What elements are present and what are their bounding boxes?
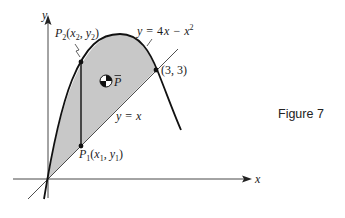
figure-caption: Figure 7	[278, 107, 324, 121]
x-axis-label: x	[254, 172, 261, 186]
p1-label: P1(x1, y1)	[78, 147, 123, 163]
point-intersection	[154, 68, 159, 73]
centroid-icon	[100, 75, 112, 87]
line-equation-label: y=x	[115, 109, 142, 123]
parabola-leader	[147, 39, 152, 46]
p2-leader	[75, 44, 80, 57]
area-between-curves-diagram: x y P P2(x2, y2) y=4x−x2 (3, 3) y=x P1(x…	[0, 0, 345, 218]
parabola-equation-label: y=4x−x2	[136, 23, 194, 38]
y-axis-label: y	[41, 8, 48, 22]
point-p2	[79, 60, 84, 65]
p2-label: P2(x2, y2)	[54, 26, 99, 42]
intersection-label: (3, 3)	[161, 63, 187, 77]
centroid-label: P	[113, 75, 122, 89]
